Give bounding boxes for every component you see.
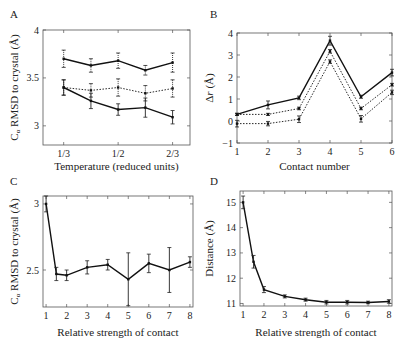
x-tick-label: 8 — [187, 310, 192, 321]
y-tick-label: 1 — [228, 94, 233, 105]
y-tick-label: 14 — [226, 222, 236, 233]
data-point — [329, 60, 331, 62]
x-tick-label: 1 — [235, 146, 240, 157]
data-line — [237, 41, 392, 115]
data-point — [171, 116, 173, 118]
data-point — [171, 61, 173, 63]
data-point — [117, 86, 119, 88]
data-point — [127, 278, 129, 280]
data-point — [360, 96, 362, 98]
x-tick-label: 3 — [282, 309, 287, 320]
x-tick-label: 5 — [359, 146, 364, 157]
y-tick-label: 13 — [226, 247, 236, 258]
data-point — [346, 301, 348, 303]
x-tick-label: 7 — [167, 310, 172, 321]
x-tick-label: 1 — [241, 309, 246, 320]
y-tick-label: 3 — [34, 120, 39, 131]
data-point — [367, 301, 369, 303]
data-point — [62, 86, 64, 88]
x-tick-label: 5 — [126, 310, 131, 321]
x-tick-label: 2 — [266, 146, 271, 157]
x-tick-label: 5 — [324, 309, 329, 320]
y-axis-label: Δr (Å) — [203, 73, 216, 103]
x-tick-label: 7 — [366, 309, 371, 320]
data-point — [267, 104, 269, 106]
data-point — [267, 113, 269, 115]
x-tick-label: 1/2 — [112, 148, 125, 159]
panel-letter: C — [10, 175, 17, 187]
panel-d: D123456781112131415Relative strength of … — [203, 175, 392, 338]
y-tick-label: −1 — [222, 138, 233, 149]
y-tick-label: 15 — [226, 197, 236, 208]
y-tick-label: 4 — [34, 25, 39, 36]
data-point — [90, 64, 92, 66]
data-point — [329, 40, 331, 42]
series-series-2 — [235, 50, 394, 116]
panel-b: B123456−101234Contact numberΔr (Å) — [203, 8, 395, 172]
x-axis-label: Relative strength of contact — [255, 326, 376, 338]
y-axis-label: Cα RMSD to crystal (Å) — [8, 198, 22, 305]
x-tick-label: 4 — [303, 309, 308, 320]
y-tick-label: 12 — [226, 273, 236, 284]
data-point — [168, 269, 170, 271]
axes-box — [43, 196, 193, 307]
data-line — [237, 51, 392, 114]
series-middle — [62, 79, 175, 101]
data-point — [55, 273, 57, 275]
x-axis-label: Contact number — [279, 160, 350, 172]
data-point — [252, 261, 254, 263]
data-point — [388, 300, 390, 302]
y-tick-label: 2 — [228, 72, 233, 83]
data-line — [237, 62, 392, 124]
data-point — [144, 92, 146, 94]
data-point — [267, 122, 269, 124]
series-upper — [62, 50, 175, 75]
x-tick-label: 1/3 — [57, 148, 70, 159]
x-tick-label: 1 — [44, 310, 49, 321]
data-point — [144, 106, 146, 108]
data-point — [86, 266, 88, 268]
data-point — [360, 107, 362, 109]
x-tick-label: 3 — [85, 310, 90, 321]
data-point — [298, 97, 300, 99]
data-point — [62, 58, 64, 60]
y-axis-label: Distance (Å) — [203, 220, 216, 277]
series-distance — [241, 196, 391, 304]
x-tick-label: 8 — [386, 309, 391, 320]
y-tick-label: 4 — [228, 28, 233, 39]
data-point — [329, 50, 331, 52]
figure: A1/31/22/333.54Temperature (reduced unit… — [0, 0, 401, 347]
x-tick-label: 3 — [297, 146, 302, 157]
y-axis-label: Cα RMSD to crystal (Å) — [8, 34, 22, 141]
axes-box — [237, 33, 392, 143]
panel-letter: A — [10, 8, 18, 20]
x-tick-label: 2 — [64, 310, 69, 321]
x-tick-label: 2/3 — [166, 148, 179, 159]
panel-letter: B — [210, 8, 217, 20]
x-tick-label: 6 — [345, 309, 350, 320]
x-tick-label: 6 — [390, 146, 395, 157]
data-point — [107, 264, 109, 266]
data-point — [144, 69, 146, 71]
data-point — [284, 295, 286, 297]
data-point — [171, 87, 173, 89]
panel-letter: D — [210, 175, 218, 187]
x-tick-label: 6 — [146, 310, 151, 321]
series-series-1 — [235, 36, 394, 115]
x-axis-label: Temperature (reduced units) — [54, 160, 179, 173]
series-rmsd — [44, 196, 192, 306]
x-tick-label: 4 — [105, 310, 110, 321]
data-point — [242, 201, 244, 203]
y-tick-label: 3 — [228, 50, 233, 61]
data-point — [236, 113, 238, 115]
y-tick-label: 3.5 — [27, 72, 40, 83]
panel-a: A1/31/22/333.54Temperature (reduced unit… — [8, 8, 190, 173]
data-line — [243, 202, 389, 302]
panel-c: C123456782.53Relative strength of contac… — [8, 175, 193, 338]
y-tick-label: 0 — [228, 116, 233, 127]
y-tick-label: 2.5 — [27, 265, 40, 276]
data-point — [236, 122, 238, 124]
data-point — [298, 107, 300, 109]
data-point — [65, 274, 67, 276]
data-point — [391, 71, 393, 73]
